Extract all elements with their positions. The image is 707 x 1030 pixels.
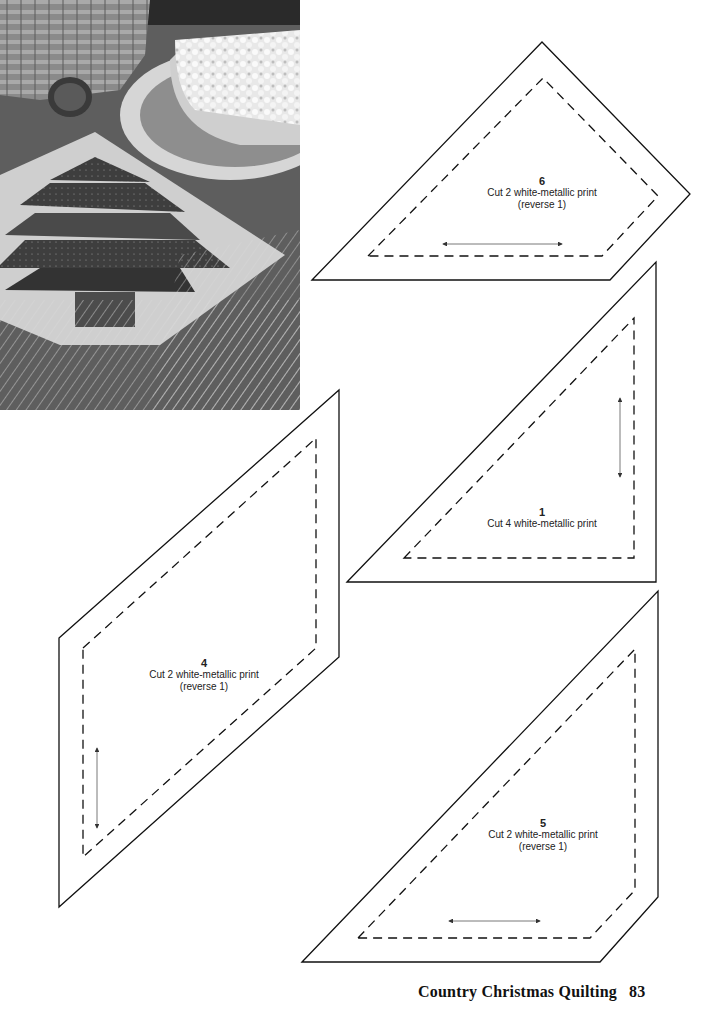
- piece-number: 1: [487, 506, 596, 518]
- seam-line: [83, 438, 316, 857]
- cutting-line: [302, 591, 658, 962]
- reverse-note: (reverse 1): [488, 841, 597, 853]
- piece-number: 6: [487, 175, 596, 187]
- cut-instruction: Cut 2 white-metallic print: [149, 669, 258, 681]
- seam-line: [358, 649, 635, 938]
- cutting-line: [59, 390, 339, 907]
- reverse-note: (reverse 1): [149, 681, 258, 693]
- page-footer: Country Christmas Quilting83: [418, 983, 645, 1001]
- seam-line: [368, 78, 658, 256]
- piece-number: 4: [149, 657, 258, 669]
- pattern-page: 6 Cut 2 white-metallic print (reverse 1)…: [0, 0, 707, 1030]
- cut-instruction: Cut 4 white-metallic print: [487, 518, 596, 530]
- cut-instruction: Cut 2 white-metallic print: [487, 187, 596, 199]
- piece-5-label: 5 Cut 2 white-metallic print (reverse 1): [488, 817, 597, 853]
- pattern-piece-5: [302, 591, 658, 962]
- piece-1-label: 1 Cut 4 white-metallic print: [487, 506, 596, 530]
- pattern-piece-1: [347, 262, 656, 582]
- cut-instruction: Cut 2 white-metallic print: [488, 829, 597, 841]
- page-number: 83: [629, 983, 645, 1000]
- book-title: Country Christmas Quilting: [418, 983, 617, 1000]
- pattern-piece-6: [312, 42, 690, 280]
- pattern-piece-4: [59, 390, 339, 907]
- reverse-note: (reverse 1): [487, 199, 596, 211]
- piece-number: 5: [488, 817, 597, 829]
- pattern-pieces: [0, 0, 707, 1030]
- cutting-line: [347, 262, 656, 582]
- piece-6-label: 6 Cut 2 white-metallic print (reverse 1): [487, 175, 596, 211]
- piece-4-label: 4 Cut 2 white-metallic print (reverse 1): [149, 657, 258, 693]
